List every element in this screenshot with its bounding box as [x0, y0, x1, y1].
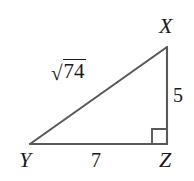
horizontal-leg-length-label: 7	[91, 150, 101, 170]
vertex-label-x: X	[159, 15, 172, 37]
right-angle-marker-icon	[152, 129, 167, 144]
vertex-label-y: Y	[19, 149, 31, 171]
radical-expression: √74	[51, 60, 86, 83]
vertex-label-z: Z	[159, 149, 171, 171]
radical-sign-icon: √	[51, 63, 63, 84]
triangle-figure: X Y Z √74 5 7	[0, 0, 194, 181]
vertical-leg-length-label: 5	[173, 85, 183, 105]
hypotenuse-length-label: √74	[51, 60, 86, 83]
radicand-value: 74	[63, 59, 86, 82]
